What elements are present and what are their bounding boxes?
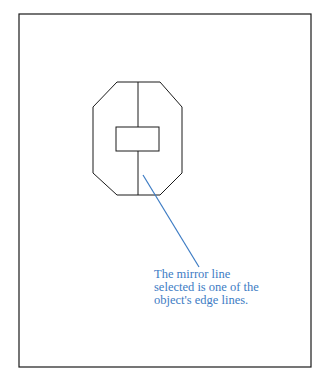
- leader-line: [143, 175, 199, 267]
- mirror-line-diagram: [0, 0, 321, 377]
- caption-text: The mirror line selected is one of the o…: [154, 268, 304, 307]
- caption-line-3: object's edge lines.: [154, 294, 304, 307]
- inner-rectangle: [116, 127, 159, 151]
